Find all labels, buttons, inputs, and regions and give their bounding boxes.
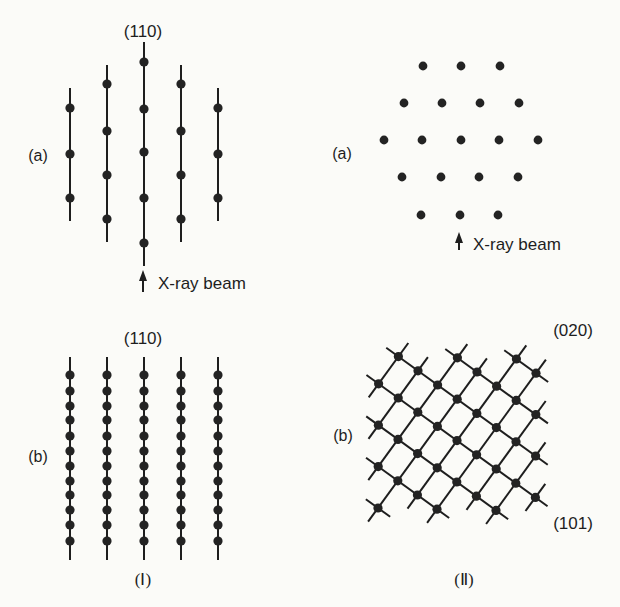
atom-dot [213, 193, 222, 202]
x-ray-beam-arrow-icon [455, 232, 463, 250]
lattice-node [394, 352, 403, 361]
lattice-node [394, 393, 403, 402]
atom-dot [65, 370, 74, 379]
atom-dot [65, 490, 74, 499]
atom-dot [176, 520, 185, 529]
lattice-node [432, 505, 441, 514]
lattice-nodes [373, 352, 540, 515]
atom-dot [176, 461, 185, 470]
lattice-node [393, 435, 402, 444]
lattice-node [374, 421, 383, 430]
atom-dot [213, 370, 222, 379]
x-ray-beam-arrow-icon [139, 270, 147, 292]
x-ray-beam-label-I: X-ray beam [158, 274, 246, 293]
atom-dot [65, 520, 74, 529]
atom-dot [514, 173, 523, 182]
atom-dot [139, 536, 148, 545]
atom-dot [65, 446, 74, 455]
hexagonal-atom-dots [380, 62, 543, 220]
atom-dot [139, 446, 148, 455]
panel-I-caption: (Ⅰ) [135, 570, 151, 589]
lattice-node [374, 462, 383, 471]
lattice-node [433, 422, 442, 431]
atom-dot [176, 505, 185, 514]
atom-dot [139, 476, 148, 485]
lattice-node [531, 493, 540, 502]
lattice-node [453, 395, 462, 404]
atom-dot [176, 490, 185, 499]
atom-dot [213, 415, 222, 424]
lattice-node [531, 451, 540, 460]
lattice-node [511, 437, 520, 446]
atom-dot [400, 99, 409, 108]
panel-II-a-hexagonal-pattern: (a) X-ray beam [332, 62, 561, 254]
atom-dot [139, 147, 148, 156]
lattice-line-020 [408, 345, 527, 508]
atom-dot [65, 431, 74, 440]
atom-dot [213, 431, 222, 440]
atom-dot [65, 193, 74, 202]
atom-dot [65, 103, 74, 112]
figure-canvas: (110) (a) X-ray beam (110) (b) (Ⅰ) (a) X… [0, 0, 620, 607]
lattice-node [512, 354, 521, 363]
atom-dot [139, 370, 148, 379]
atom-dot [65, 401, 74, 410]
atom-dot [139, 520, 148, 529]
atom-rows [65, 42, 222, 266]
atom-dot [176, 170, 185, 179]
atom-dot [139, 490, 148, 499]
atom-dot [457, 136, 466, 145]
atom-dot [65, 536, 74, 545]
atom-dot [457, 62, 466, 71]
atom-dot [213, 149, 222, 158]
lattice-node [374, 379, 383, 388]
atom-dot [139, 57, 148, 66]
atom-dot [65, 476, 74, 485]
atom-dot [495, 136, 504, 145]
lattice-node [492, 382, 501, 391]
atom-dot [65, 149, 74, 158]
atom-dot [419, 62, 428, 71]
atom-dot [213, 386, 222, 395]
atom-dot [176, 431, 185, 440]
atom-dot [534, 136, 543, 145]
atom-dot [213, 446, 222, 455]
lattice-node [413, 490, 422, 499]
atom-dot [102, 536, 111, 545]
atom-dot [139, 193, 148, 202]
direction-label-101: (101) [553, 514, 593, 533]
atom-dot [176, 370, 185, 379]
panel-II-caption: (Ⅱ) [454, 570, 473, 589]
lattice-node [413, 366, 422, 375]
lattice-lines [366, 343, 548, 524]
lattice-line-020 [427, 360, 546, 523]
atom-dot [515, 99, 524, 108]
dense-atom-rows [65, 357, 222, 560]
lattice-node [452, 477, 461, 486]
atom-dot [213, 461, 222, 470]
panel-I-b-dense-rows: (110) (b) (Ⅰ) [28, 329, 222, 589]
atom-dot [213, 476, 222, 485]
panel-I-a-label: (a) [28, 147, 48, 164]
lattice-node [472, 492, 481, 501]
atom-dot [213, 490, 222, 499]
lattice-node [433, 380, 442, 389]
lattice-node [472, 450, 481, 459]
atom-dot [496, 62, 505, 71]
atom-dot [139, 415, 148, 424]
atom-dot [102, 126, 111, 135]
atom-dot [102, 520, 111, 529]
atom-dot [176, 415, 185, 424]
lattice-node [433, 463, 442, 472]
atom-dot [476, 99, 485, 108]
atom-dot [102, 446, 111, 455]
atom-dot [102, 461, 111, 470]
atom-dot [213, 536, 222, 545]
atom-dot [102, 401, 111, 410]
x-ray-beam-label-II: X-ray beam [473, 235, 561, 254]
atom-dot [456, 211, 465, 220]
atom-dot [102, 431, 111, 440]
atom-dot [139, 505, 148, 514]
lattice-node [531, 410, 540, 419]
atom-dot [102, 370, 111, 379]
